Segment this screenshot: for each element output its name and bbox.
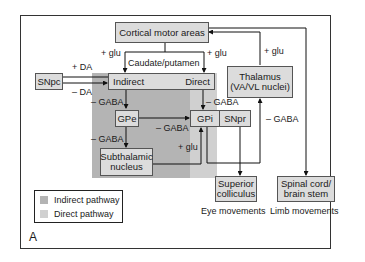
- cortex-indirect-glu-label: + glu: [101, 48, 121, 58]
- thalamus-box: Thalamus (VA/VL nuclei): [227, 66, 293, 98]
- cortical-motor-areas-box: Cortical motor areas: [115, 22, 209, 43]
- snpc-box: SNpc: [35, 73, 63, 90]
- snpc-da-minus-label: – DA: [72, 87, 92, 97]
- gpe-label: GPe: [117, 114, 136, 124]
- cortical-motor-areas-label: Cortical motor areas: [119, 28, 205, 38]
- indirect-label: Indirect: [113, 77, 144, 87]
- snpr-label: SNpr: [224, 114, 246, 124]
- thalamus-cortex-glu-label: + glu: [264, 46, 284, 56]
- panel-label: A: [29, 232, 37, 242]
- legend-indirect-label: Indirect pathway: [54, 195, 120, 205]
- stn-label-2: nucleus: [110, 162, 143, 172]
- legend: Indirect pathway Direct pathway: [34, 190, 123, 223]
- gpe-gpi-gaba-label: – GABA: [156, 123, 189, 133]
- legend-direct-label: Direct pathway: [54, 209, 114, 219]
- cortex-direct-glu-label: + glu: [207, 48, 227, 58]
- sc-label-2: colliculus: [217, 189, 256, 199]
- gpi-box: GPi: [190, 110, 220, 127]
- gpi-thalamus-gaba-label: – GABA: [266, 114, 299, 124]
- subthalamic-nucleus-box: Subthalamic nucleus: [100, 148, 153, 176]
- spinal-label-2: brain stem: [284, 189, 328, 199]
- superior-colliculus-box: Superior colliculus: [215, 176, 257, 202]
- indirect-swatch: [40, 196, 48, 204]
- gpe-box: GPe: [115, 110, 139, 127]
- spinal-cord-box: Spinal cord/ brain stem: [277, 176, 335, 202]
- stn-gpi-glu-label: + glu: [178, 142, 198, 152]
- eye-movements-label: Eye movements: [201, 206, 266, 216]
- snpc-label: SNpc: [37, 77, 60, 87]
- direct-swatch: [40, 210, 48, 218]
- thalamus-nuclei-label: (VA/VL nuclei): [230, 82, 290, 92]
- gpi-label: GPi: [197, 114, 213, 124]
- caudate-putamen-label: Caudate/putamen: [128, 58, 200, 68]
- snpc-da-plus-label: + DA: [72, 62, 92, 72]
- striatum-box: Indirect Direct: [108, 73, 215, 90]
- limb-movements-label: Limb movements: [270, 206, 339, 216]
- indirect-gpe-gaba-label: – GABA: [91, 97, 124, 107]
- direct-label: Direct: [185, 77, 210, 87]
- snpr-box: SNpr: [219, 110, 251, 127]
- direct-gpi-gaba-label: – GABA: [206, 97, 239, 107]
- gpe-stn-gaba-label: – GABA: [91, 134, 124, 144]
